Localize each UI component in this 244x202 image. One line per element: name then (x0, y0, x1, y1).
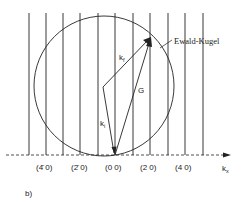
figure-label: b) (25, 189, 32, 198)
reflection-label: (4 0) (175, 163, 192, 172)
kx-axis-label: kx (222, 164, 229, 174)
k-f-vector (103, 40, 148, 87)
k-f-label: kf (119, 53, 125, 63)
axis-arrow-icon (223, 153, 231, 158)
k-i-vector (103, 87, 114, 153)
reflection-label: (4̄ 0) (36, 163, 53, 172)
reflection-label: (0 0) (105, 163, 122, 172)
label-leader-line (160, 40, 172, 48)
lattice-rods (29, 13, 203, 155)
reflection-label: (2̄ 0) (71, 163, 88, 172)
k-i-label: ki (100, 119, 105, 129)
reflection-labels: (4̄ 0) (2̄ 0) (0 0) (2 0) (4 0) (36, 163, 192, 172)
g-label: G (138, 86, 144, 95)
reflection-label: (2 0) (140, 163, 157, 172)
sphere-label: Ewald-Kugel (174, 36, 220, 46)
ewald-construction-diagram: Ewald-Kugel kf ki G (4̄ 0) (2̄ 0) (0 0) … (0, 0, 244, 202)
